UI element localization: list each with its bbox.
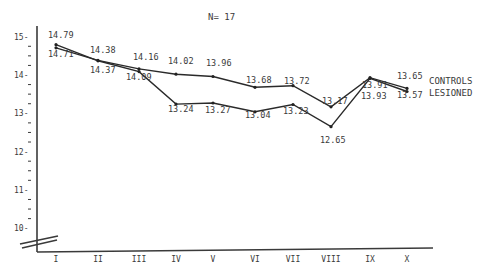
line-chart: N= 17 10-11-12-13-14-15- IIIIIIIVVVIVIIV… — [0, 0, 479, 272]
data-label: 14.09 — [126, 72, 152, 82]
data-label: 14.02 — [168, 56, 194, 66]
sample-size-label: N= 17 — [208, 12, 235, 22]
data-label: 14.16 — [133, 52, 159, 62]
data-label: 14.71 — [48, 49, 74, 59]
data-point — [54, 43, 57, 46]
data-label: 13.04 — [245, 110, 271, 120]
x-tick-label: VI — [250, 255, 260, 264]
data-label: 13.27 — [205, 105, 231, 115]
data-label: 13.24 — [168, 104, 194, 114]
data-label: 13.65 — [397, 71, 423, 81]
x-tick-label: VIII — [321, 255, 340, 264]
data-point — [96, 59, 99, 62]
x-tick-label: I — [54, 255, 59, 264]
legend-lesioned: LESIONED — [429, 88, 472, 98]
data-label: 14.38 — [90, 45, 116, 55]
data-point — [253, 86, 256, 89]
data-labels: 14.7114.3814.1614.0213.9613.6813.7213.17… — [48, 30, 423, 145]
x-tick-labels: IIIIIIIVVVIVIIVIIIIXX — [54, 255, 410, 264]
data-label: 13.57 — [397, 90, 423, 100]
data-label: 13.91 — [362, 80, 388, 90]
x-axis — [37, 248, 433, 252]
x-tick-label: IV — [171, 255, 181, 264]
x-tick-label: V — [211, 255, 216, 264]
y-tick-label: 14- — [14, 71, 28, 80]
axis-break-mark — [22, 240, 57, 248]
data-label: 13.72 — [284, 76, 310, 86]
data-label: 13.96 — [206, 58, 232, 68]
legend-controls: CONTROLS — [429, 76, 472, 86]
series-line — [56, 45, 407, 127]
y-tick-label: 12- — [14, 148, 28, 157]
x-tick-label: III — [132, 255, 147, 264]
y-tick-label: 13- — [14, 109, 28, 118]
data-label: 13.23 — [283, 106, 309, 116]
y-tick-label: 10- — [14, 224, 28, 233]
y-tick-labels: 10-11-12-13-14-15- — [14, 33, 31, 234]
data-label: 13.93 — [361, 91, 387, 101]
x-tick-label: X — [405, 255, 410, 264]
data-label: 13.17 — [322, 96, 348, 106]
data-point — [329, 125, 332, 128]
y-tick-label: 15- — [14, 33, 28, 42]
x-tick-label: II — [93, 255, 103, 264]
series-controls — [54, 46, 408, 108]
data-label: 14.37 — [90, 65, 116, 75]
x-tick-label: VII — [286, 255, 301, 264]
data-point — [174, 73, 177, 76]
y-tick-label: 11- — [14, 186, 28, 195]
data-point — [211, 75, 214, 78]
x-tick-label: IX — [365, 255, 375, 264]
data-label: 13.68 — [246, 75, 272, 85]
series-lesioned — [54, 43, 408, 128]
axis-break-mark — [20, 236, 58, 244]
data-label: 14.79 — [48, 30, 74, 40]
data-label: 12.65 — [320, 135, 346, 145]
